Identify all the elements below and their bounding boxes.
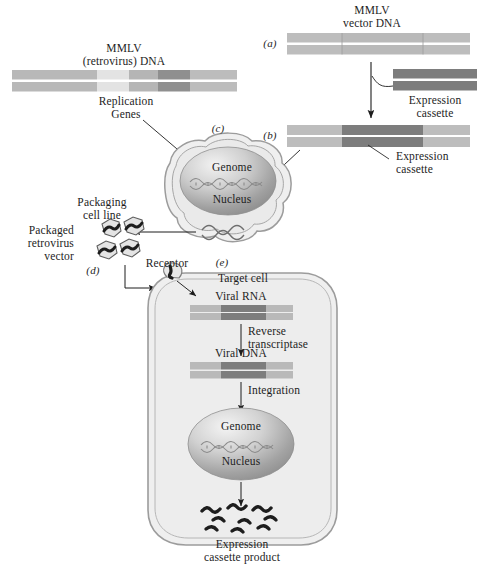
- viral-rna-label: Viral RNA: [199, 290, 283, 303]
- packaged-retrovirus-virions: [97, 217, 144, 259]
- packaging-cell: [165, 133, 291, 241]
- expression-cassette-product-label: Expression cassette product: [172, 538, 312, 564]
- replication-genes-label: Replication Genes: [84, 95, 168, 121]
- target-cell: [148, 263, 337, 545]
- virion-4: [120, 239, 140, 257]
- genome-label-packaging: Genome: [204, 161, 260, 174]
- leader-cassette-b: [368, 145, 389, 159]
- viral-dna-label: Viral DNA: [198, 347, 284, 360]
- nucleus-label-target: Nucleus: [213, 455, 269, 468]
- cassette-hook-line: [372, 76, 393, 87]
- mmlv-vector-dna-construct-a: [287, 33, 470, 55]
- nucleus-label-packaging: Nucleus: [204, 193, 260, 206]
- packaged-retrovirus-vector-label: Packaged retrovirus vector: [2, 224, 74, 263]
- target-cell-nucleus: [188, 408, 294, 480]
- panel-label-d: (d): [82, 264, 104, 277]
- mmlv-vector-dna-title: MMLV vector DNA: [331, 4, 413, 30]
- expression-cassette-construct: [393, 69, 477, 91]
- expression-cassette-label-1: Expression cassette: [388, 94, 482, 120]
- expression-cassette-label-2: Expression cassette: [396, 150, 488, 176]
- packaging-cell-line-label: Packaging cell line: [60, 196, 144, 222]
- panel-label-b: (b): [259, 129, 281, 142]
- virion-3: [97, 241, 117, 259]
- mmlv-retrovirus-dna-title: MMLV (retrovirus) DNA: [62, 42, 186, 68]
- genome-label-target: Genome: [213, 420, 269, 433]
- integration-label: Integration: [248, 384, 334, 397]
- receptor-label: Receptor: [134, 257, 200, 270]
- mmlv-vector-dna-construct-b: [287, 125, 470, 147]
- panel-label-c: (c): [207, 122, 229, 135]
- target-cell-label: Target cell: [199, 272, 287, 285]
- panel-label-e: (e): [211, 256, 233, 269]
- mmlv-retrovirus-dna-construct: [12, 70, 237, 92]
- panel-label-a: (a): [259, 37, 281, 50]
